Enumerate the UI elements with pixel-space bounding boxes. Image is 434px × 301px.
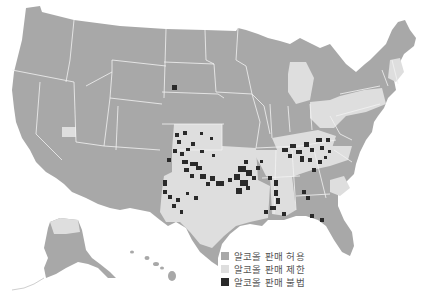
legend-item-prohibited: 알코올 판매 불법 — [221, 276, 305, 288]
map-legend: 알코올 판매 허용 알코올 판매 제한 알코올 판매 불법 — [221, 250, 305, 289]
alaska-north-restricted — [50, 218, 80, 234]
swatch-allowed-icon — [221, 252, 229, 260]
legend-label-prohibited: 알코올 판매 불법 — [234, 275, 305, 289]
hawaii — [130, 251, 176, 282]
legend-item-allowed: 알코올 판매 허용 — [221, 250, 305, 262]
alaska-aleutians — [12, 278, 44, 290]
legend-label-restricted: 알코올 판매 제한 — [234, 262, 305, 276]
legend-item-restricted: 알코올 판매 제한 — [221, 263, 305, 275]
us-alcohol-sales-map — [0, 0, 434, 301]
legend-label-allowed: 알코올 판매 허용 — [234, 249, 305, 263]
swatch-prohibited-icon — [221, 278, 229, 286]
swatch-restricted-icon — [221, 265, 229, 273]
